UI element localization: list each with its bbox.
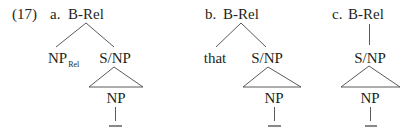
tree-b-left-child: that <box>204 51 227 66</box>
tree-a-left-child-label: NP <box>48 50 67 66</box>
tree-b-triangle <box>243 67 301 87</box>
tree-b-root: B-Rel <box>223 7 259 22</box>
tree-a-left-child-subscript: Rel <box>68 60 79 69</box>
tree-c-triangle <box>341 66 400 87</box>
tree-a-right-branch <box>86 23 114 47</box>
tree-a-left-child: NPRel <box>48 51 79 72</box>
tree-a-letter: a. <box>50 7 60 22</box>
tree-a-triangle <box>89 67 143 87</box>
tree-a-gap-node: NP <box>106 91 125 106</box>
tree-a-root: B-Rel <box>68 7 104 22</box>
tree-c-child: S/NP <box>354 51 386 66</box>
example-number: (17) <box>12 7 37 22</box>
tree-b-left-branch <box>216 23 241 47</box>
tree-c-root: B-Rel <box>348 7 384 22</box>
tree-a-left-branch <box>56 23 86 47</box>
tree-c-letter: c. <box>332 7 342 22</box>
syntax-tree-figure: (17) a. B-Rel NPRel S/NP NP b. B-Rel tha… <box>0 0 408 133</box>
tree-b-letter: b. <box>205 7 216 22</box>
tree-b-right-branch <box>241 23 266 47</box>
tree-c-gap-node: NP <box>360 91 379 106</box>
tree-b-gap-node: NP <box>264 91 283 106</box>
tree-a-right-child: S/NP <box>99 51 131 66</box>
tree-b-right-child: S/NP <box>251 51 283 66</box>
